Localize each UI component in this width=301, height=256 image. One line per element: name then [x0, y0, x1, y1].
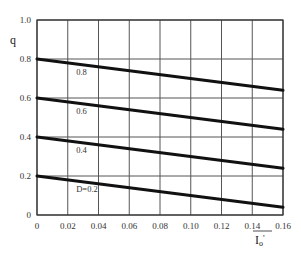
curve-labels: 0.80.60.4D=0.2: [76, 67, 98, 194]
y-axis-label: q: [10, 33, 16, 47]
x-tick-label: 0.02: [60, 221, 76, 231]
x-tick-label: 0: [35, 221, 40, 231]
grid: [37, 20, 283, 215]
x-tick-label: 0.14: [244, 221, 260, 231]
x-tick-label: 0.10: [183, 221, 199, 231]
x-tick-label: 0.08: [152, 221, 168, 231]
curve-label: 0.4: [76, 145, 87, 155]
x-tick-label: 0.06: [121, 221, 137, 231]
y-tick-label: 1.0: [20, 15, 32, 25]
y-tick-label: 0.4: [20, 132, 32, 142]
y-tick-labels: 00.20.40.60.81.0: [20, 15, 32, 220]
y-tick-label: 0.6: [20, 93, 32, 103]
y-tick-label: 0: [27, 210, 32, 220]
x-tick-label: 0.16: [275, 221, 291, 231]
x-axis-label: Io': [253, 231, 272, 248]
x-tick-label: 0.04: [91, 221, 107, 231]
x-tick-labels: 00.020.040.060.080.100.120.140.16: [35, 221, 292, 231]
x-tick-label: 0.12: [214, 221, 230, 231]
y-tick-label: 0.8: [20, 54, 32, 64]
y-tick-label: 0.2: [20, 171, 31, 181]
curve-label: 0.8: [76, 67, 87, 77]
curve-label: 0.6: [76, 106, 87, 116]
curve-label: D=0.2: [76, 184, 98, 194]
chart: 00.20.40.60.81.0 00.020.040.060.080.100.…: [0, 0, 301, 256]
x-axis-label-text: Io': [255, 233, 265, 248]
